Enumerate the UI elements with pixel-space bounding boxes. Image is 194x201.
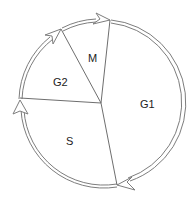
arrow-icon-upper-left — [45, 29, 61, 44]
cycle-ring — [19, 19, 186, 188]
sector-dividers — [20, 20, 117, 185]
phase-label-m: M — [88, 52, 97, 64]
arc-m — [62, 19, 96, 28]
phase-label-g2: G2 — [53, 76, 68, 88]
phase-label-s: S — [66, 135, 73, 147]
arc-s-inner — [24, 110, 117, 185]
arrow-icon-bottom — [117, 177, 135, 190]
divider-s-g2 — [20, 98, 101, 103]
arrow-icon-top — [93, 13, 110, 24]
arc-m-inner — [63, 22, 96, 31]
divider-g1-s — [101, 103, 117, 185]
divider-g2-m — [61, 29, 101, 103]
arc-s — [21, 110, 117, 188]
arrow-icon-left — [13, 100, 28, 114]
cell-cycle-diagram: M G2 G1 S — [0, 0, 194, 201]
divider-m-g1 — [101, 20, 110, 103]
arc-g2-inner — [22, 39, 53, 99]
phase-label-g1: G1 — [140, 98, 155, 110]
